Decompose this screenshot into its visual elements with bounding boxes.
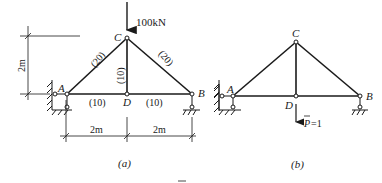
- joint-B-b: [358, 94, 362, 98]
- joint-C: [125, 36, 129, 40]
- caption-b: (b): [291, 158, 304, 171]
- span-dim-label-1: 2m: [90, 124, 103, 135]
- node-label-D: D: [122, 96, 131, 108]
- force-DB: (10): [146, 97, 163, 109]
- load-label: 100kN: [136, 16, 166, 28]
- node-label-C: C: [114, 31, 122, 43]
- unit-load-value: =1: [311, 118, 322, 129]
- node-label-A-b: A: [226, 83, 234, 95]
- height-dim-label: 2m: [16, 59, 27, 72]
- node-label-D-b: D: [284, 99, 293, 111]
- node-label-B-b: B: [366, 90, 373, 102]
- joint-A: [65, 92, 69, 96]
- force-AC: (20): [88, 49, 108, 69]
- member-AC-b: [233, 42, 296, 96]
- member-CB: [127, 38, 192, 94]
- truss-figure: 100kN C A D B (20) (20) (10) (10) (10) 2…: [0, 0, 382, 183]
- force-CD: (10): [115, 67, 127, 84]
- force-AD: (10): [89, 97, 106, 109]
- height-dimension: [20, 26, 80, 100]
- member-CB-b: [296, 42, 360, 96]
- caption-a: (a): [118, 157, 131, 170]
- joint-C-b: [294, 40, 298, 44]
- span-dim-label-2: 2m: [153, 124, 166, 135]
- unit-load-symbol: P: [303, 118, 310, 129]
- node-label-A: A: [57, 82, 65, 94]
- node-label-C-b: C: [292, 27, 300, 39]
- node-label-B: B: [198, 87, 205, 99]
- joint-B: [190, 92, 194, 96]
- joint-D-b: [294, 94, 298, 98]
